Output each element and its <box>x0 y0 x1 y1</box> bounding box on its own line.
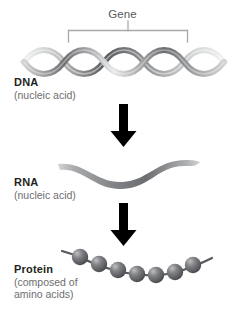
amino-acid-bead <box>148 267 164 283</box>
protein-beads <box>72 249 201 283</box>
amino-acid-bead <box>110 262 126 278</box>
amino-acid-bead <box>167 264 183 280</box>
protein-subtitle-line-2: amino acids) <box>14 288 78 300</box>
protein-title: Protein <box>14 263 78 276</box>
protein-label: Protein (composed of amino acids) <box>14 263 78 301</box>
amino-acid-bead <box>91 256 107 272</box>
amino-acid-bead <box>185 257 201 273</box>
amino-acid-bead <box>129 266 145 282</box>
central-dogma-diagram: Gene <box>0 0 245 309</box>
protein-subtitle-line-1: (composed of <box>14 276 78 288</box>
